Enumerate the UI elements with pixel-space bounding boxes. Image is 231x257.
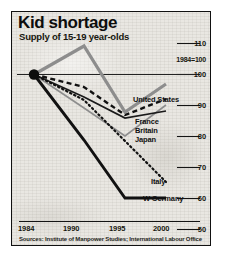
series-label-france: France	[135, 118, 159, 126]
series-label-united-states: United States	[133, 96, 179, 104]
base-index-note: 1984=100	[176, 56, 206, 63]
origin-marker-dot	[29, 69, 39, 79]
y-tick-label-80: 80	[198, 133, 206, 141]
chart-figure: Kid shortage Supply of 15-19 year-olds	[0, 0, 231, 257]
y-tick-label-50: 50	[198, 226, 206, 234]
x-tick-label-1995: 1995	[109, 225, 125, 233]
chart-plot-area	[12, 12, 211, 246]
x-tick-label-1984: 1984	[18, 225, 34, 233]
x-tick-label-2000: 2000	[153, 225, 169, 233]
series-label-italy: Italy	[151, 178, 165, 186]
chart-panel: Kid shortage Supply of 15-19 year-olds	[11, 11, 211, 246]
y-tick-label-60: 60	[198, 195, 206, 203]
y-tick-label-90: 90	[198, 102, 206, 110]
y-tick-label-110: 110	[194, 40, 206, 48]
x-tick-label-1990: 1990	[63, 225, 79, 233]
y-tick-label-70: 70	[198, 164, 206, 172]
series-label-britain: Britain	[135, 127, 158, 135]
chart-source-note: Sources: Institute of Manpower Studies; …	[19, 236, 202, 242]
series-label-w-germany: W Germany	[143, 195, 183, 203]
series-label-japan: Japan	[135, 136, 156, 144]
y-tick-label-100: 100	[194, 71, 206, 79]
